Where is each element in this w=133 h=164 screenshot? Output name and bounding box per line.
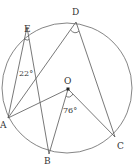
label-a: A [0, 120, 7, 130]
segment-ob [49, 89, 68, 154]
segment-ao [8, 89, 68, 118]
center-point-o [67, 88, 70, 91]
segment-eb [27, 27, 49, 154]
label-d: D [72, 7, 79, 17]
circle-geometry-diagram: A B C D E O 22° 76° [0, 0, 133, 164]
angle-arc-o [66, 94, 73, 97]
angle-arc-e [25, 39, 30, 40]
angle-label-e: 22° [19, 69, 33, 78]
segment-dc [76, 22, 115, 137]
label-o: O [64, 76, 71, 86]
label-b: B [44, 156, 51, 164]
angle-label-o: 76° [63, 106, 77, 115]
label-c: C [117, 141, 124, 151]
label-e: E [24, 24, 31, 34]
angle-arc-d [71, 30, 80, 33]
